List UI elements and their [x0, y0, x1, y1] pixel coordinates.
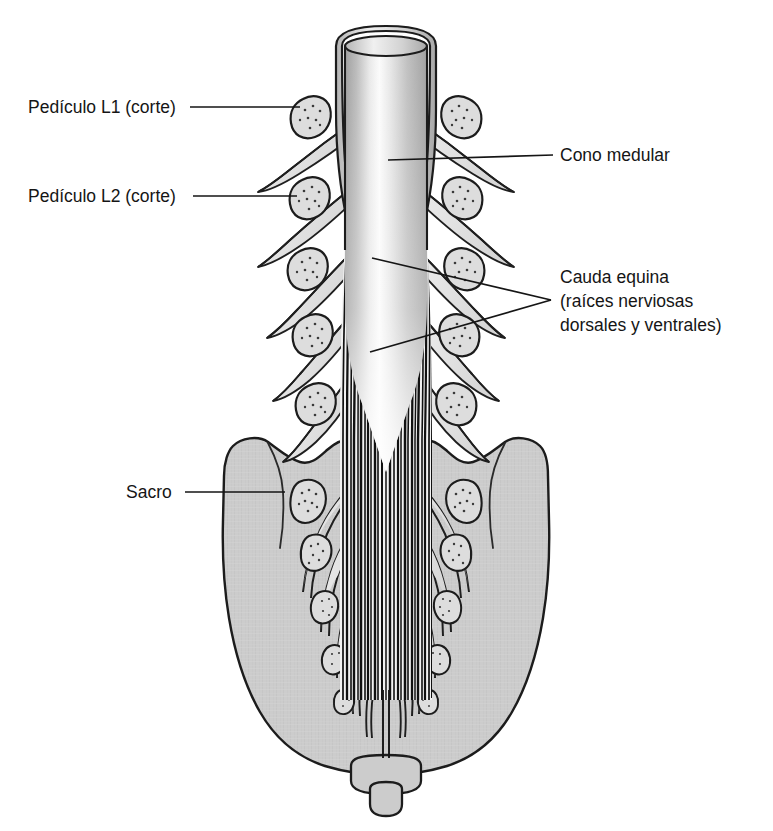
label-cauda-equina-line1: Cauda equina — [560, 267, 669, 287]
label-sacro: Sacro — [126, 482, 172, 502]
pedicle-l3-left — [288, 248, 328, 290]
pedicle-l1-left — [291, 96, 331, 138]
pedicle-l2-left — [290, 177, 330, 219]
cord-cut-surface — [345, 36, 427, 56]
pedicle-l5-right — [436, 383, 476, 425]
pedicle-l5-left — [296, 383, 336, 425]
pedicle-l1-right — [441, 96, 481, 138]
sacral-foramen-s2-left — [301, 535, 332, 571]
pedicle-l3-right — [444, 248, 484, 290]
label-cauda-equina-line3: dorsales y ventrales) — [560, 315, 721, 335]
coccyx-segment-2 — [370, 782, 402, 816]
pedicle-l2-right — [442, 177, 482, 219]
sacral-foramen-s2-right — [441, 535, 472, 571]
label-cono-medular: Cono medular — [560, 145, 670, 165]
label-pediculo-l2: Pedículo L2 (corte) — [28, 186, 176, 206]
label-pediculo-l1: Pedículo L1 (corte) — [28, 97, 176, 117]
sacral-foramen-s3-left — [311, 591, 338, 623]
cauda-equina-diagram: Pedículo L1 (corte) Pedículo L2 (corte) … — [0, 0, 773, 831]
sacral-foramen-s3-right — [434, 591, 461, 623]
pedicle-l4-right — [439, 314, 479, 356]
anatomy-figure: Pedículo L1 (corte) Pedículo L2 (corte) … — [0, 0, 773, 831]
label-cauda-equina-line2: (raíces nerviosas — [560, 291, 693, 311]
pedicle-l4-left — [293, 314, 333, 356]
